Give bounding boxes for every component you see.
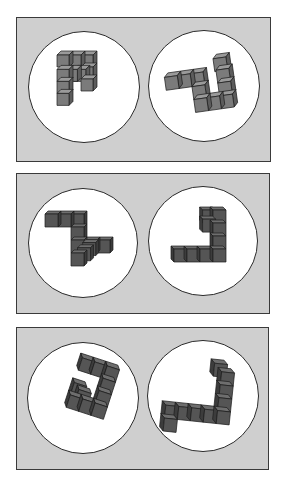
cube-figure-3-right [0,0,290,488]
